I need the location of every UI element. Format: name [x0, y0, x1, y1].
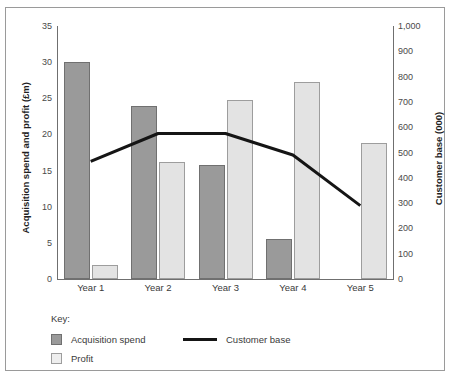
- tick-label: 200: [398, 224, 413, 233]
- chart-figure: Acquisition spend and profit (£m) Custom…: [5, 7, 445, 371]
- tick-label: 15: [42, 166, 52, 175]
- tick-label: 400: [398, 173, 413, 182]
- tick-label: 1,000: [398, 22, 421, 31]
- legend-label-profit: Profit: [71, 353, 93, 364]
- tick-label: 300: [398, 199, 413, 208]
- customer-base-line: [57, 26, 394, 280]
- legend-swatch-acquisition-spend: [51, 334, 62, 345]
- plot-area: [57, 26, 394, 279]
- category-label: Year 2: [124, 282, 191, 294]
- tick-label: 800: [398, 72, 413, 81]
- tick-label: 900: [398, 47, 413, 56]
- legend-row-primary: Acquisition spend Customer base: [51, 332, 381, 347]
- tick-label: 500: [398, 148, 413, 157]
- chart-legend: Key: Acquisition spend Customer base Pro…: [51, 313, 381, 370]
- tick-label: 700: [398, 97, 413, 106]
- tick-label: 0: [398, 275, 403, 284]
- tick-label: 600: [398, 123, 413, 132]
- legend-swatch-profit: [51, 353, 62, 364]
- legend-title: Key:: [51, 313, 381, 324]
- tick-label: 100: [398, 249, 413, 258]
- category-label: Year 5: [327, 282, 394, 294]
- legend-label-acquisition-spend: Acquisition spend: [71, 334, 183, 345]
- tick-label: 20: [42, 130, 52, 139]
- tick-label: 35: [42, 22, 52, 31]
- category-label: Year 3: [192, 282, 259, 294]
- category-label: Year 1: [57, 282, 124, 294]
- tick-label: 30: [42, 58, 52, 67]
- category-label: Year 4: [259, 282, 326, 294]
- tick-label: 25: [42, 94, 52, 103]
- tick-label: 5: [47, 238, 52, 247]
- y-axis-right-ticks: 01002003004005006007008009001,000: [398, 26, 438, 280]
- legend-row-secondary: Profit: [51, 351, 381, 366]
- tick-label: 10: [42, 202, 52, 211]
- legend-label-customer-base: Customer base: [226, 334, 290, 345]
- legend-swatch-customer-base: [183, 338, 217, 341]
- y-axis-left-ticks: 05101520253035: [6, 26, 52, 280]
- x-axis-categories: Year 1Year 2Year 3Year 4Year 5: [57, 282, 394, 298]
- tick-label: 0: [47, 275, 52, 284]
